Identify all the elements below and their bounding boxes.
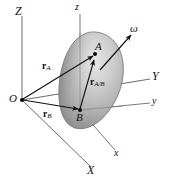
vector-subscript-rB: B [47, 112, 51, 120]
vector-subscript-rA: A [46, 64, 50, 72]
vector-label-rA: rA [42, 62, 50, 72]
axis-label-Z-capital: Z [15, 5, 22, 17]
vector-label-rB: rB [43, 110, 51, 120]
point-dot-O [20, 98, 24, 102]
vector-label-rAB: rA/B [90, 78, 104, 88]
angular-velocity-label-omega: ω [130, 23, 138, 34]
rigid-body-kinematics-figure: Z z Y y X x O A B rA rB rA/B ω [0, 0, 172, 181]
point-label-B: B [76, 112, 83, 123]
axis-label-Y-capital: Y [152, 70, 159, 82]
axis-label-x-lower: x [114, 148, 118, 158]
point-label-A: A [95, 41, 102, 52]
figure-canvas [0, 0, 172, 181]
point-dot-A [93, 52, 97, 56]
point-label-O: O [9, 93, 17, 104]
vector-subscript-rAB: A/B [94, 80, 104, 88]
axis-label-z-lower: z [75, 2, 79, 12]
axis-label-X-capital: X [87, 164, 94, 176]
axis-label-y-lower: y [152, 96, 156, 106]
